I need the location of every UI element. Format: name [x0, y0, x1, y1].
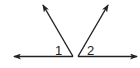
- angle-1: 1: [14, 5, 73, 58]
- diagram-svg: 1 2: [0, 0, 140, 68]
- angle-2: 2: [78, 5, 137, 58]
- angle-diagram: 1 2: [0, 0, 140, 68]
- angle-1-label: 1: [55, 43, 62, 58]
- angle-2-label: 2: [87, 43, 94, 58]
